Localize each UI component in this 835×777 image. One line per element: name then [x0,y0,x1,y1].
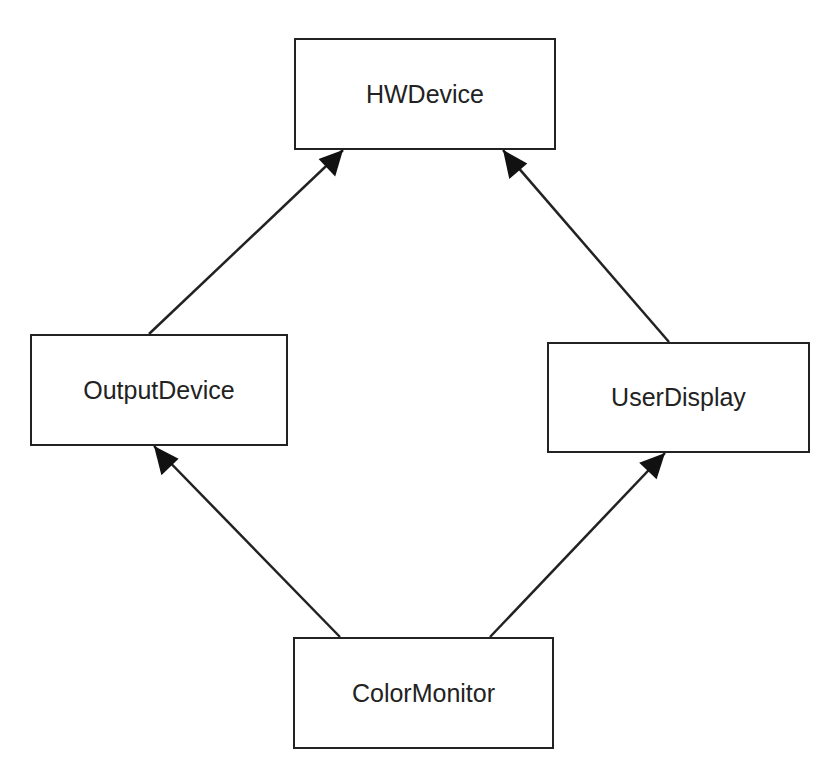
class-node-outputdevice: OutputDevice [30,334,288,446]
class-node-userdisplay: UserDisplay [547,342,810,453]
class-label: ColorMonitor [352,679,495,708]
class-label: HWDevice [366,80,484,109]
edge-colormonitor-to-userdisplay [490,453,665,637]
edge-userdisplay-to-hwdevice [503,150,669,342]
edge-outputdevice-to-hwdevice [149,150,343,334]
class-label: OutputDevice [83,376,234,405]
class-label: UserDisplay [611,383,746,412]
edge-colormonitor-to-outputdevice [154,446,340,637]
class-node-colormonitor: ColorMonitor [293,637,554,749]
arrowhead-icon [154,446,179,475]
arrowhead-icon [319,150,343,177]
class-node-hwdevice: HWDevice [294,38,556,150]
